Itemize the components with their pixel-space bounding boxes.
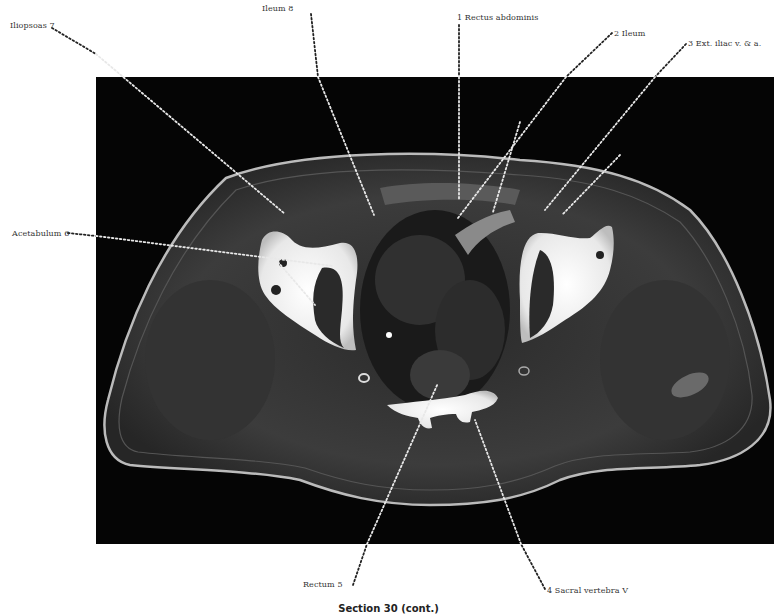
label-ileum-8: Ileum 8 [262, 4, 294, 13]
label-ext-iliac-vessels: 3 Ext. iliac v. & a. [688, 39, 761, 48]
leader-ileum-8-outer [311, 14, 318, 77]
figure-caption: Section 30 (cont.) [0, 603, 777, 614]
label-acetabulum: Acetabulum 6 [12, 229, 69, 238]
label-sacral-vertebra: 4 Sacral vertebra V [547, 586, 628, 595]
label-iliopsoas: Iliopsoas 7 [10, 21, 55, 30]
label-rectum: Rectum 5 [303, 580, 343, 589]
label-ileum-2: 2 Ileum [614, 29, 646, 38]
label-rectus-abdominis: 1 Rectus abdominis [457, 13, 538, 22]
